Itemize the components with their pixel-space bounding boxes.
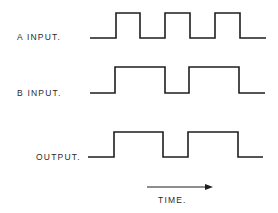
signal-output: OUTPUT.: [36, 132, 263, 162]
signal-b-label: B INPUT.: [17, 88, 62, 98]
timing-diagram: A INPUT. B INPUT. OUTPUT. TIME.: [0, 0, 278, 213]
signal-b-input: B INPUT.: [17, 67, 265, 98]
signal-a-input: A INPUT.: [17, 13, 266, 42]
signal-a-label: A INPUT.: [17, 32, 61, 42]
signal-output-label: OUTPUT.: [36, 152, 81, 162]
time-axis-label: TIME.: [158, 195, 187, 205]
arrow-right-icon: [205, 184, 213, 190]
signal-b-waveform: [90, 67, 265, 93]
signal-a-waveform: [90, 13, 266, 38]
signal-output-waveform: [88, 132, 263, 157]
time-axis: TIME.: [147, 184, 213, 205]
